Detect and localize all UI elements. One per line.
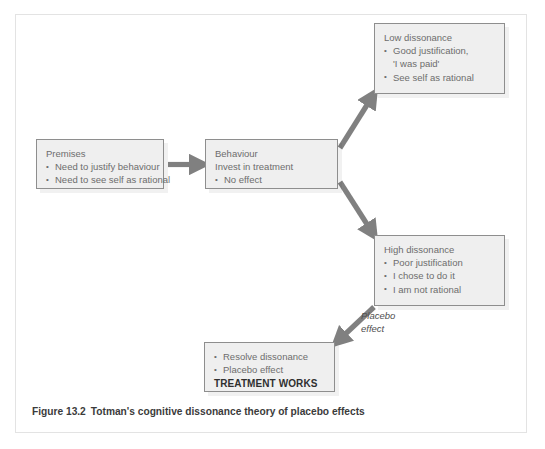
node-behaviour-heading: Behaviour: [215, 147, 328, 160]
node-low-dissonance-heading: Low dissonance: [384, 31, 495, 44]
figure-caption-text: Totman's cognitive dissonance theory of …: [91, 406, 365, 417]
node-behaviour-bullet-0: No effect: [215, 173, 328, 186]
node-high-dissonance-bullet-1: I chose to do it: [384, 269, 495, 282]
figure-caption-number: Figure 13.2: [32, 406, 86, 417]
node-high-dissonance: High dissonance Poor justification I cho…: [374, 235, 505, 306]
node-low-dissonance-bullet-1: See self as rational: [384, 71, 495, 84]
node-resolve-bullet-0: Resolve dissonance: [214, 350, 325, 363]
node-premises-bullet-1: Need to see self as rational: [46, 173, 154, 186]
node-resolve-bullet-1: Placebo effect: [214, 363, 325, 376]
figure-caption: Figure 13.2Totman's cognitive dissonance…: [32, 406, 365, 417]
node-premises-heading: Premises: [46, 147, 154, 160]
node-premises-bullet-0: Need to justify behaviour: [46, 160, 154, 173]
figure-container: Premises Need to justify behaviour Need …: [0, 0, 545, 449]
edge-label-placebo-effect-line1: Placebo: [361, 310, 395, 323]
edge-label-placebo-effect: Placebo effect: [361, 310, 395, 335]
node-behaviour: Behaviour Invest in treatment No effect: [205, 139, 338, 189]
node-high-dissonance-heading: High dissonance: [384, 243, 495, 256]
node-low-dissonance-bullet-list: Good justification, 'I was paid' See sel…: [384, 44, 495, 84]
node-low-dissonance-bullet-0-continued: 'I was paid': [384, 57, 495, 70]
node-resolve-dissonance: Resolve dissonance Placebo effect TREATM…: [204, 342, 335, 392]
node-high-dissonance-bullet-2: I am not rational: [384, 283, 495, 296]
node-behaviour-bullet-list: No effect: [215, 173, 328, 186]
node-premises-bullet-list: Need to justify behaviour Need to see se…: [46, 160, 154, 186]
node-resolve-bullet-list: Resolve dissonance Placebo effect: [214, 350, 325, 376]
node-low-dissonance: Low dissonance Good justification, 'I wa…: [374, 23, 505, 94]
node-premises: Premises Need to justify behaviour Need …: [36, 139, 164, 189]
node-resolve-emphasis: TREATMENT WORKS: [214, 376, 325, 390]
node-low-dissonance-bullet-0: Good justification,: [384, 44, 495, 57]
node-high-dissonance-bullet-list: Poor justification I chose to do it I am…: [384, 256, 495, 296]
edge-label-placebo-effect-line2: effect: [361, 323, 395, 336]
node-high-dissonance-bullet-0: Poor justification: [384, 256, 495, 269]
node-behaviour-subtext: Invest in treatment: [215, 160, 328, 173]
